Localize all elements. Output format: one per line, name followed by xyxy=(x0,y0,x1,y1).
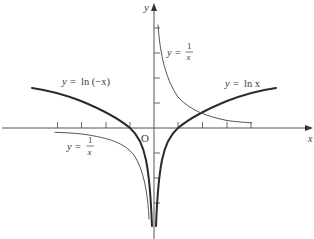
svg-text:1: 1 xyxy=(187,41,192,51)
svg-text:1: 1 xyxy=(88,135,93,145)
svg-text:y =: y = xyxy=(166,47,181,58)
curve-reciprocal-positive xyxy=(158,25,252,123)
y-axis xyxy=(151,3,160,239)
svg-text:ln x: ln x xyxy=(244,78,261,89)
y-axis-label: y xyxy=(143,1,149,13)
svg-text:x: x xyxy=(186,52,191,62)
x-axis xyxy=(2,122,313,131)
label-reciprocal-negative: y = 1 x xyxy=(66,135,94,157)
label-ln-neg-x: y = ln (−x) xyxy=(61,76,110,88)
svg-text:y =: y = xyxy=(224,78,239,89)
function-graph-diagram: y x O y = ln x y = ln (−x) y = 1 x y = 1… xyxy=(0,0,314,239)
curve-ln-x xyxy=(156,88,276,226)
svg-text:y =: y = xyxy=(66,141,81,152)
x-axis-arrow-icon xyxy=(305,125,313,131)
label-reciprocal-positive: y = 1 x xyxy=(166,41,193,62)
svg-text:y =: y = xyxy=(61,76,76,87)
origin-label: O xyxy=(141,132,149,144)
x-axis-label: x xyxy=(307,133,313,144)
label-ln-x: y = ln x xyxy=(224,78,261,89)
svg-text:x: x xyxy=(87,147,92,157)
svg-text:ln (−x): ln (−x) xyxy=(81,76,110,88)
curve-ln-neg-x xyxy=(32,88,152,226)
y-axis-arrow-icon xyxy=(151,3,157,11)
